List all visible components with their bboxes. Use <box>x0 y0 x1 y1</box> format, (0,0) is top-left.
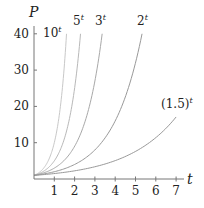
curve-2-t <box>34 34 142 176</box>
y-tick-label: 40 <box>14 27 29 41</box>
curve--1-5-t <box>34 117 176 175</box>
curves <box>34 34 176 176</box>
x-tick-label: 4 <box>111 184 119 198</box>
chart-svg: 1234567 10203040 P t 10t 5t 3t 2t (1.5)t <box>0 0 204 208</box>
y-tick-label: 30 <box>14 63 29 77</box>
exponential-growth-chart: 1234567 10203040 P t 10t 5t 3t 2t (1.5)t <box>0 0 204 208</box>
x-tick-label: 3 <box>91 184 99 198</box>
x-axis-title: t <box>187 171 193 187</box>
label-5t: 5t <box>73 13 85 28</box>
label-10t: 10t <box>43 25 62 40</box>
label-1-5t: (1.5)t <box>161 96 193 111</box>
x-tick-label: 6 <box>152 184 160 198</box>
curve-3-t <box>34 34 102 176</box>
x-tick-label: 5 <box>132 184 140 198</box>
x-tick-label: 2 <box>71 184 79 198</box>
y-tick-label: 20 <box>14 99 29 113</box>
y-tick-label: 10 <box>14 136 29 150</box>
x-tick-label: 7 <box>172 184 180 198</box>
label-2t: 2t <box>137 13 149 28</box>
y-axis-title: P <box>28 4 39 20</box>
x-tick-label: 1 <box>50 184 58 198</box>
x-ticks: 1234567 <box>50 177 179 199</box>
curve-10-t <box>34 34 67 176</box>
label-3t: 3t <box>95 13 107 28</box>
curve-5-t <box>34 34 81 176</box>
